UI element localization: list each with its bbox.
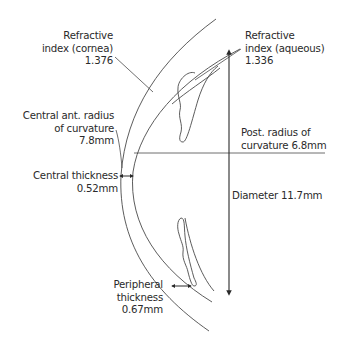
- refractive-aqueous-line1: Refractive: [245, 30, 325, 43]
- leader-central-ant-radius: [116, 130, 122, 168]
- refractive-aqueous-value: 1.336: [245, 55, 325, 68]
- central-thickness-value: 0.52mm: [33, 183, 118, 196]
- refractive-cornea-value: 1.376: [42, 55, 113, 68]
- leader-refractive-aqueous: [195, 49, 241, 80]
- central-ant-radius-line1: Central ant. radius: [23, 110, 114, 123]
- central-ant-radius-line2: of curvature: [23, 123, 114, 136]
- post-radius-line1: Post. radius of: [241, 127, 327, 140]
- posterior-cornea-surface: [132, 49, 240, 302]
- label-diameter: Diameter 11.7mm: [232, 190, 322, 203]
- peripheral-thickness-line1: Peripheral: [113, 279, 163, 292]
- leader-refractive-cornea: [115, 57, 153, 92]
- label-post-radius: Post. radius of curvature 6.8mm: [241, 127, 327, 152]
- refractive-cornea-line1: Refractive: [42, 30, 113, 43]
- post-radius-line2: curvature 6.8mm: [241, 140, 327, 153]
- upper-iris-shape: [178, 66, 218, 142]
- refractive-aqueous-line2: index (aqueous): [245, 43, 325, 56]
- peripheral-thickness-line2: thickness: [113, 292, 163, 305]
- central-ant-radius-value: 7.8mm: [23, 135, 114, 148]
- label-central-ant-radius: Central ant. radius of curvature 7.8mm: [23, 110, 114, 148]
- label-peripheral-thickness: Peripheral thickness 0.67mm: [113, 279, 163, 317]
- label-central-thickness: Central thickness 0.52mm: [33, 170, 118, 195]
- peripheral-thickness-value: 0.67mm: [113, 304, 163, 317]
- label-refractive-cornea: Refractive index (cornea) 1.376: [42, 30, 113, 68]
- diameter-value: Diameter 11.7mm: [232, 190, 322, 203]
- label-refractive-aqueous: Refractive index (aqueous) 1.336: [245, 30, 325, 68]
- lower-iris-outer-line: [185, 218, 214, 291]
- refractive-cornea-line2: index (cornea): [42, 43, 113, 56]
- upper-iris-inner-line: [172, 68, 220, 104]
- central-thickness-line1: Central thickness: [33, 170, 118, 183]
